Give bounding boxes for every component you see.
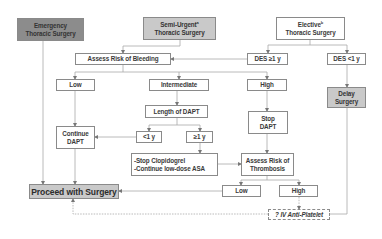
footnote-marker: a <box>197 20 199 25</box>
node-des-lt1y: DES <1 y <box>327 53 366 65</box>
node-assess-bleeding: Assess Risk of Bleeding <box>75 53 171 65</box>
node-text: Elective <box>298 21 321 28</box>
node-des-ge1y: DES ≥1 y <box>247 53 288 65</box>
node-text: Thoracic Surgery <box>154 29 204 36</box>
node-text: High <box>260 81 274 89</box>
node-stop-clopidogrel: -Stop Clopidogrel-Continue low-dose ASA <box>131 153 218 176</box>
node-text: Low <box>69 81 81 89</box>
node-text: ≥1 y <box>194 133 206 141</box>
footnote-marker: b <box>321 20 323 25</box>
node-text: Stop <box>261 115 275 122</box>
node-text: DES ≥1 y <box>254 55 280 63</box>
node-text: Continue <box>62 130 88 137</box>
node-bleeding-low: Low <box>56 79 95 91</box>
node-text: Intermediate <box>161 81 197 89</box>
node-thrombosis-high: High <box>279 185 318 197</box>
node-bleeding-intermediate: Intermediate <box>149 79 209 91</box>
node-emergency-surgery: EmergencyThoracic Surgery <box>17 18 84 41</box>
node-elective-surgery: ElectivebThoracic Surgery <box>276 17 345 40</box>
flowchart-canvas: EmergencyThoracic Surgery Semi-UrgentaTh… <box>0 0 382 239</box>
node-text: Thoracic Surgery <box>285 29 335 36</box>
node-text: Surgery <box>335 98 358 105</box>
node-assess-thrombosis: Assess Risk ofThrombosis <box>241 153 294 176</box>
node-stop-dapt: StopDAPT <box>248 111 288 134</box>
node-text: Delay <box>338 90 354 97</box>
node-text: DES <1 y <box>333 55 359 63</box>
node-continue-dapt: ContinueDAPT <box>56 126 95 149</box>
node-text: Emergency <box>34 22 67 29</box>
node-text: <1 y <box>143 133 155 141</box>
node-semi-urgent-surgery: Semi-UrgentaThoracic Surgery <box>143 17 216 40</box>
node-text: Assess Risk of Bleeding <box>88 55 159 63</box>
node-delay-surgery: DelaySurgery <box>327 87 366 108</box>
node-bleeding-high: High <box>247 79 287 91</box>
node-text: Assess Risk of <box>246 157 289 164</box>
node-text: Thoracic Surgery <box>25 30 75 37</box>
node-text: Low <box>235 187 247 195</box>
node-text: ? IV Anti-Platelet <box>275 211 323 219</box>
node-text: -Stop Clopidogrel <box>134 157 185 164</box>
node-text: High <box>292 187 306 195</box>
node-ge-1y: ≥1 y <box>186 131 213 143</box>
node-text: Thrombosis <box>250 165 285 172</box>
node-text: Proceed with Surgery <box>31 188 116 196</box>
node-text: Semi-Urgent <box>160 21 196 28</box>
node-text: Length of DAPT <box>153 108 199 116</box>
node-thrombosis-low: Low <box>222 185 261 197</box>
node-proceed-with-surgery: Proceed with Surgery <box>29 184 119 199</box>
node-length-of-dapt: Length of DAPT <box>145 105 208 118</box>
node-text: DAPT <box>260 123 277 130</box>
node-text: -Continue low-dose ASA <box>134 165 205 172</box>
node-text: DAPT <box>67 138 84 145</box>
node-lt-1y: <1 y <box>136 131 162 143</box>
node-iv-antiplatelet: ? IV Anti-Platelet <box>268 209 330 220</box>
